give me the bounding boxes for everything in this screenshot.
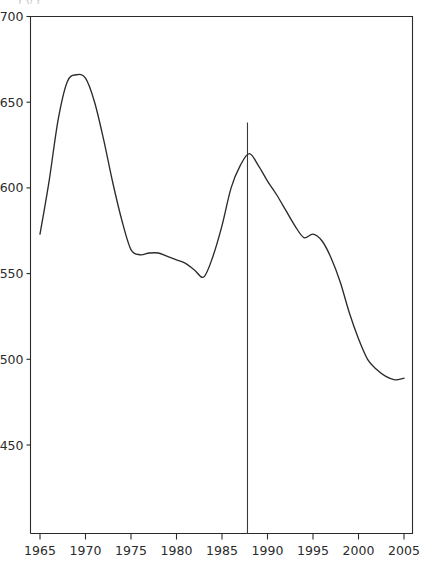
axis-frame <box>31 17 413 534</box>
x-tick-label: 1985 <box>206 543 238 558</box>
y-axis-tick-labels: 450500550600650700 <box>0 9 24 453</box>
x-tick-label: 2000 <box>343 543 375 558</box>
chart-container: j y j . 450500550600650700 1965197019751… <box>0 0 423 562</box>
x-tick-label: 1965 <box>24 543 56 558</box>
x-tick-label: 1980 <box>161 543 193 558</box>
data-series-line <box>40 74 404 380</box>
x-tick-label: 1995 <box>297 543 329 558</box>
x-axis-tick-labels: 196519701975198019851990199520002005 <box>24 543 420 558</box>
y-tick-label: 700 <box>0 9 24 24</box>
line-chart: 450500550600650700 196519701975198019851… <box>0 0 423 562</box>
x-tick-label: 1975 <box>115 543 147 558</box>
y-tick-label: 500 <box>0 352 24 367</box>
y-tick-label: 450 <box>0 438 24 453</box>
top-caption-partial: j y j . <box>18 0 48 4</box>
axis-tick-marks <box>27 17 405 540</box>
plot-border <box>31 17 413 534</box>
y-tick-label: 600 <box>0 180 24 195</box>
y-tick-label: 550 <box>0 266 24 281</box>
x-tick-label: 1990 <box>252 543 284 558</box>
x-tick-label: 2005 <box>388 543 420 558</box>
y-tick-label: 650 <box>0 95 24 110</box>
x-tick-label: 1970 <box>70 543 102 558</box>
